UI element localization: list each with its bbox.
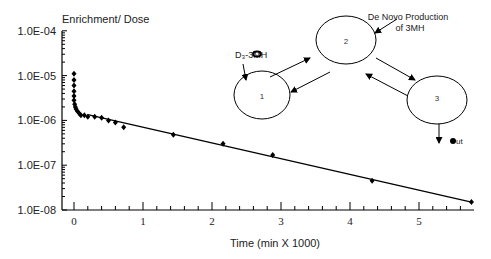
production-label-2: of 3MH xyxy=(395,23,424,33)
data-point xyxy=(72,83,77,89)
production-label: De Novo Production xyxy=(368,12,449,22)
x-tick-label: 0 xyxy=(71,215,77,227)
arrow-1-to-2 xyxy=(270,58,310,77)
x-tick-label: 5 xyxy=(416,215,422,227)
arrow-3-to-2 xyxy=(366,74,408,96)
data-point xyxy=(72,77,77,83)
y-tick-label: 1.0E-06 xyxy=(17,114,56,126)
arrow-2-to-1 xyxy=(291,72,330,92)
fit-line xyxy=(88,115,472,203)
y-axis-title: Enrichment/ Dose xyxy=(62,13,149,25)
input-label: D₃-3MH xyxy=(235,50,267,60)
data-point xyxy=(171,132,176,138)
y-tick-label: 1.0E-05 xyxy=(17,70,56,82)
y-tick-label: 1.0E-08 xyxy=(17,204,56,216)
x-tick-label: 2 xyxy=(209,215,215,227)
data-point xyxy=(72,71,77,77)
pool-label: 2 xyxy=(344,37,349,46)
x-tick-label: 1 xyxy=(140,215,146,227)
data-point xyxy=(92,114,97,120)
chart-container: 1.0E-081.0E-071.0E-061.0E-051.0E-0401234… xyxy=(0,0,491,259)
pool-label: 3 xyxy=(435,94,440,103)
data-point xyxy=(121,124,126,130)
data-point xyxy=(469,199,474,205)
out-label: ut xyxy=(456,137,463,146)
x-tick-label: 3 xyxy=(278,215,284,227)
pool-label: 1 xyxy=(260,92,265,101)
y-tick-label: 1.0E-04 xyxy=(17,25,56,37)
y-tick-label: 1.0E-07 xyxy=(17,159,56,171)
x-tick-label: 4 xyxy=(347,215,353,227)
data-point xyxy=(99,115,104,121)
arrow-2-to-3 xyxy=(376,58,415,80)
x-axis-title: Time (min X 1000) xyxy=(230,237,320,249)
compartment-model-chart: 1.0E-081.0E-071.0E-061.0E-051.0E-0401234… xyxy=(0,0,491,259)
